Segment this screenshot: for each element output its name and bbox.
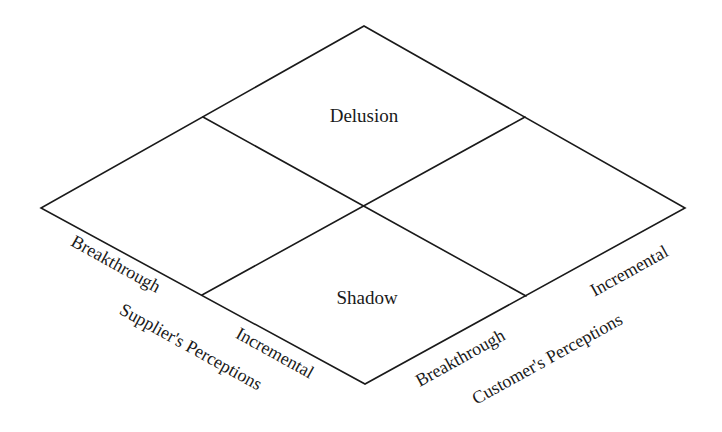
supplier-axis-title: Supplier's Perceptions	[116, 299, 265, 394]
quadrant-label-delusion: Delusion	[330, 105, 399, 126]
customer-axis-incremental-label: Incremental	[587, 241, 672, 300]
supplier-axis-breakthrough-label: Breakthrough	[68, 231, 164, 296]
quadrant-label-shadow: Shadow	[336, 287, 398, 308]
customer-axis-title: Customer's Perceptions	[468, 309, 625, 408]
matrix-diagram: Delusion Shadow Breakthrough Incremental…	[0, 0, 722, 432]
